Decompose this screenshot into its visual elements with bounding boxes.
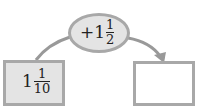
start-value-box: 1 1 10 (3, 60, 65, 106)
start-mixed-number: 1 1 10 (22, 67, 50, 96)
start-numerator: 1 (38, 67, 46, 81)
operation-whole: 1 (94, 24, 105, 41)
operation-oval: + 1 1 2 (68, 13, 130, 53)
operation-denominator: 2 (106, 33, 114, 47)
connector-start-to-op (36, 37, 70, 60)
start-whole: 1 (22, 73, 33, 90)
start-denominator: 10 (34, 82, 51, 96)
operation-sign: + (80, 24, 94, 41)
operation-fraction: 1 2 (106, 18, 114, 47)
connector-op-to-result (128, 38, 160, 56)
start-fraction: 1 10 (34, 67, 51, 96)
operation-numerator: 1 (106, 18, 114, 32)
operation-mixed-number: + 1 1 2 (80, 18, 114, 47)
result-answer-box[interactable] (133, 61, 195, 106)
